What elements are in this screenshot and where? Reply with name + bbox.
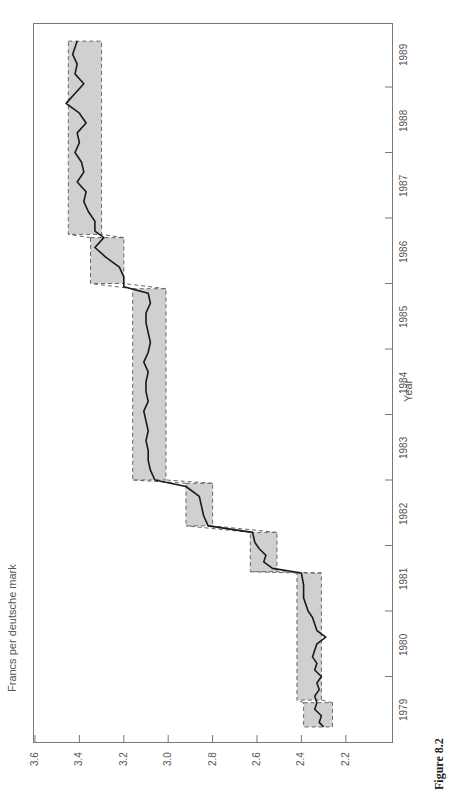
value-tick-label: 2.2 [340, 752, 351, 766]
value-tick-label: 2.4 [295, 752, 306, 766]
year-axis-ticks [385, 87, 392, 677]
value-tick-label: 3.4 [73, 752, 84, 766]
year-tick-label: 1989 [398, 44, 409, 66]
value-tick-label: 3.2 [118, 752, 129, 766]
year-tick-label: 1985 [398, 306, 409, 328]
year-tick-label: 1980 [398, 634, 409, 656]
chart-canvas [0, 0, 449, 792]
year-tick-label: 1982 [398, 503, 409, 525]
year-tick-label: 1983 [398, 437, 409, 459]
exchange-rate-line [66, 41, 326, 727]
fluctuation-bands [68, 41, 332, 727]
value-axis-ticks [35, 735, 346, 742]
figure-caption: Figure 8.2 [432, 738, 447, 790]
year-axis-title: Year [402, 380, 414, 402]
value-tick-label: 3.6 [29, 752, 40, 766]
value-axis-title: Francs per deutsche mark [6, 564, 18, 692]
band [91, 238, 124, 284]
band [304, 703, 333, 727]
band [133, 289, 166, 480]
year-tick-label: 1987 [398, 175, 409, 197]
value-tick-label: 2.6 [251, 752, 262, 766]
year-tick-label: 1988 [398, 110, 409, 132]
year-tick-label: 1986 [398, 241, 409, 263]
year-tick-label: 1981 [398, 568, 409, 590]
year-tick-label: 1979 [398, 699, 409, 721]
value-tick-label: 2.8 [207, 752, 218, 766]
value-tick-label: 3.0 [162, 752, 173, 766]
